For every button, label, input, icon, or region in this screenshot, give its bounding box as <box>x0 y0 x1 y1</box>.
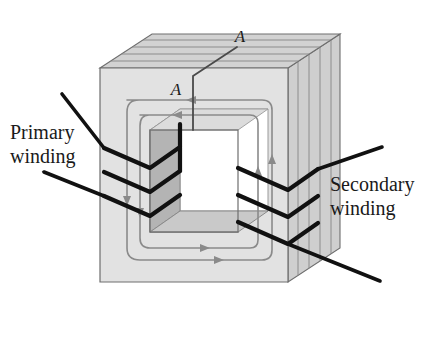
transformer-diagram-svg: A A Primary winding Secondary winding <box>0 0 433 345</box>
primary-winding-label-line1: Primary <box>10 121 74 144</box>
cut-label-top: A <box>234 27 246 46</box>
core-right-side-face <box>288 34 340 282</box>
core-body <box>100 34 340 282</box>
secondary-winding-label-line1: Secondary <box>330 173 414 196</box>
transformer-figure: A A Primary winding Secondary winding <box>0 0 433 345</box>
cut-label-inner: A <box>170 80 182 99</box>
secondary-winding-label-line2: winding <box>330 197 396 220</box>
primary-lead-lower <box>44 172 104 196</box>
primary-winding-label-line2: winding <box>10 145 76 168</box>
